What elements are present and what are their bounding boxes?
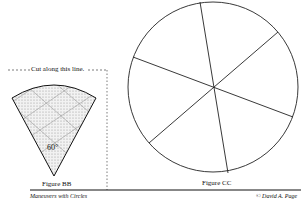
footer-copyright: © David A. Page bbox=[256, 193, 297, 199]
footer-title: Maneuvers with Circles bbox=[30, 193, 87, 199]
angle-label: 60° bbox=[47, 143, 58, 152]
figure-bb-caption: Figure BB bbox=[42, 180, 71, 188]
diagram-canvas bbox=[0, 0, 301, 203]
circle-figure-cc bbox=[128, 2, 298, 173]
cut-label: Cut along this line. bbox=[31, 65, 84, 73]
figure-cc-caption: Figure CC bbox=[202, 179, 231, 187]
sector-figure-bb bbox=[0, 70, 110, 176]
